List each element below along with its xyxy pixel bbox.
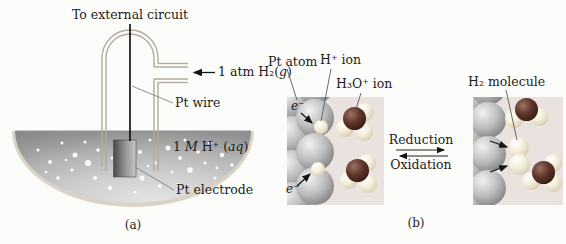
oxygen-atom-sphere xyxy=(532,161,555,184)
acid-label-part: H⁺ ( xyxy=(198,139,228,154)
oxygen-atom-sphere xyxy=(343,107,366,130)
h2-molecule-label: H₂ molecule xyxy=(468,75,545,89)
acid-label-part: ) xyxy=(244,139,249,154)
pt-atom-sphere xyxy=(473,102,506,138)
pt-wire-label: Pt wire xyxy=(175,96,220,110)
oxygen-atom-sphere xyxy=(346,159,369,182)
hydrogen-atom-sphere xyxy=(314,120,328,134)
h3o-ion-label: H₃O⁺ ion xyxy=(336,77,392,91)
h-ion-label: H⁺ ion xyxy=(320,53,361,67)
acid-label-part: 1 xyxy=(173,139,185,154)
oxidation-label: Oxidation xyxy=(390,158,451,172)
electron-label: e⁻ xyxy=(286,183,299,196)
hydrogen-electrode-figure: To external circuit 1 atm H₂(g) Pt wire … xyxy=(0,0,566,244)
pt-atom-sphere xyxy=(473,170,506,205)
hydrogen-atom-sphere xyxy=(311,162,325,176)
reduction-label: Reduction xyxy=(389,133,453,147)
pt-electrode-label: Pt electrode xyxy=(176,183,253,197)
acid-label-italic: aq xyxy=(228,139,243,154)
pt-atom-sphere xyxy=(473,136,506,172)
electron-label: e⁻ xyxy=(291,100,304,113)
equilibrium-arrows-icon xyxy=(396,150,448,156)
acid-label: 1 M H⁺ (aq) xyxy=(173,140,248,154)
caption-b: (b) xyxy=(407,217,424,230)
molecular-panel-left xyxy=(287,97,384,205)
oxygen-atom-sphere xyxy=(515,98,538,121)
pointer-lines-a xyxy=(132,86,174,190)
acid-label-italic: M xyxy=(185,139,198,154)
h2-molecule-sphere xyxy=(509,154,530,175)
caption-a: (a) xyxy=(125,219,142,232)
external-circuit-label: To external circuit xyxy=(72,8,188,22)
pt-atom-label: Pt atom xyxy=(268,55,317,69)
pt-electrode xyxy=(114,140,137,177)
molecular-panel-right xyxy=(473,97,563,205)
